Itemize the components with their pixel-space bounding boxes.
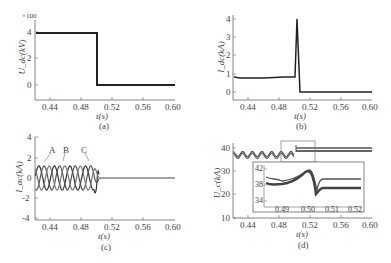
c-ytick: 2	[27, 153, 32, 163]
inset-ytick: 42	[255, 164, 263, 173]
d-ytick: 30	[221, 166, 230, 176]
d-ytick: 10	[221, 213, 230, 223]
inset-xtick: 0.49	[275, 205, 289, 214]
c-ytick: 0	[27, 173, 32, 183]
c-ylabel: I_ac(kA)	[14, 161, 24, 192]
b-xtick: 0.48	[271, 102, 287, 112]
d-caption: (d)	[298, 240, 309, 250]
b-ylabel: I_dc(kA)	[216, 41, 226, 72]
inset-xtick: 0.52	[348, 205, 362, 214]
d-xtick: 0.60	[362, 220, 378, 230]
phase-label-a: A	[49, 145, 56, 155]
b-ytick: 1	[226, 69, 231, 79]
b-ytick: 3	[226, 32, 231, 42]
b-caption: (b)	[296, 121, 307, 131]
c-ytick: -4	[22, 213, 30, 223]
a-ytick: 4	[27, 27, 32, 37]
a-ytick: 2	[27, 53, 32, 63]
series-udc	[36, 33, 175, 85]
a-xlabel: t(s)	[96, 111, 108, 121]
a-xtick: 0.60	[165, 102, 181, 112]
d-xtick: 0.48	[271, 220, 287, 230]
d-ytick: 20	[221, 189, 230, 199]
a-caption: (a)	[99, 121, 109, 131]
c-xtick: 0.48	[73, 222, 89, 232]
d-ytick: 40	[221, 143, 230, 153]
a-xtick: 0.56	[135, 102, 151, 112]
b-xtick: 0.56	[333, 102, 349, 112]
c-caption: (c)	[101, 242, 111, 252]
inset-xtick: 0.50	[301, 205, 315, 214]
c-xtick: 0.56	[135, 222, 151, 232]
c-ytick: -2	[22, 193, 30, 203]
a-xtick: 0.48	[73, 102, 89, 112]
d-xlabel: t(s)	[296, 229, 308, 239]
d-xtick: 0.56	[333, 220, 349, 230]
c-xtick: 0.60	[165, 222, 181, 232]
a-multiplier: ×100	[22, 12, 36, 20]
b-xlabel: t(s)	[294, 111, 306, 121]
c-ytick: 4	[27, 132, 32, 142]
c-xtick: 0.44	[42, 222, 58, 232]
inset-xtick: 0.51	[325, 205, 339, 214]
series-iac	[35, 166, 175, 193]
c-xlabel: t(s)	[98, 231, 110, 241]
phase-label-c: C	[81, 145, 87, 155]
d-xtick: 0.44	[240, 220, 256, 230]
b-ytick: 2	[226, 50, 231, 60]
a-xtick: 0.44	[42, 102, 58, 112]
inset-ytick: 38	[255, 180, 263, 189]
series-idc	[234, 19, 372, 92]
b-xtick: 0.60	[362, 102, 378, 112]
inset-ytick: 34	[255, 196, 263, 205]
d-ylabel: U_c(kA)	[212, 168, 222, 198]
phase-label-b: B	[63, 145, 69, 155]
b-ytick: 4	[226, 14, 231, 24]
b-xtick: 0.44	[240, 102, 256, 112]
a-ylabel: U_dc(kV)	[17, 40, 27, 75]
series-uc	[233, 141, 372, 162]
a-ytick: 0	[27, 80, 32, 90]
b-ytick: 0	[226, 87, 231, 97]
